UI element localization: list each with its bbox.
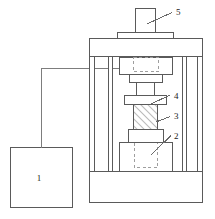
top-cap-plate bbox=[118, 33, 174, 39]
diagram-canvas: 1 2 3 4 5 bbox=[0, 0, 215, 219]
machine-base bbox=[90, 172, 203, 203]
control-unit-box bbox=[11, 148, 73, 208]
top-piston bbox=[136, 9, 156, 33]
right-outer-column bbox=[198, 57, 203, 173]
specimen bbox=[134, 105, 158, 130]
press-machine-diagram: 1 2 3 4 5 bbox=[0, 0, 215, 219]
callout-label-4: 4 bbox=[174, 91, 179, 101]
right-inner-column bbox=[183, 57, 187, 173]
callout-label-1: 1 bbox=[37, 173, 42, 183]
callout-label-5: 5 bbox=[176, 7, 181, 17]
leader-line-3 bbox=[156, 117, 170, 123]
callout-label-2: 2 bbox=[174, 131, 179, 141]
left-inner-column bbox=[109, 57, 113, 173]
top-crossbeam bbox=[90, 39, 203, 57]
ram-shaft bbox=[137, 83, 155, 96]
callout-label-3: 3 bbox=[174, 111, 179, 121]
upper-adapter-block bbox=[130, 75, 163, 83]
left-outer-column bbox=[90, 57, 95, 173]
lower-pedestal bbox=[120, 143, 173, 172]
lower-adapter-block bbox=[129, 130, 164, 143]
